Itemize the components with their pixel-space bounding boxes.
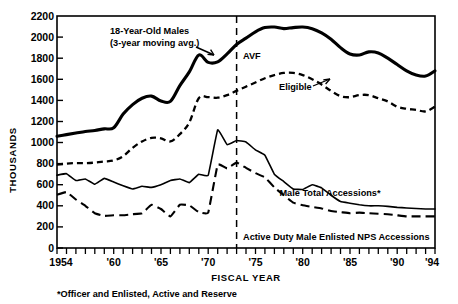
- y-axis-tick-labels: 0 200 400 600 800 1000 1200 1400 1600 18…: [31, 10, 55, 254]
- male-total-accessions-label: Male Total Accessions*: [279, 188, 381, 198]
- y-tick-600: 600: [36, 178, 54, 190]
- y-tick-2000: 2000: [31, 31, 55, 43]
- y-tick-800: 800: [36, 157, 54, 169]
- nps-accessions-label: Active Duty Male Enlisted NPS Accessions: [243, 232, 430, 242]
- x-tick-1985: '85: [343, 256, 357, 268]
- x-tick-1965: '65: [154, 256, 168, 268]
- chart-figure: 0 200 400 600 800 1000 1200 1400 1600 18…: [0, 0, 458, 304]
- chart-footnote: *Officer and Enlisted, Active and Reserv…: [57, 289, 237, 299]
- y-tick-2200: 2200: [31, 10, 55, 22]
- chart-svg: 0 200 400 600 800 1000 1200 1400 1600 18…: [0, 0, 458, 304]
- x-tick-1980: '80: [296, 256, 310, 268]
- x-tick-1994: '94: [425, 256, 439, 268]
- y-tick-200: 200: [36, 220, 54, 232]
- y-tick-1000: 1000: [31, 136, 55, 148]
- top-curve-label-line1: 18-Year-Old Males: [110, 26, 189, 36]
- avf-label: AVF: [243, 51, 261, 61]
- x-tick-1970: '70: [201, 256, 215, 268]
- x-tick-1990: '90: [390, 256, 404, 268]
- y-axis-title: THOUSANDS: [7, 127, 18, 193]
- y-tick-1400: 1400: [31, 94, 55, 106]
- y-tick-400: 400: [36, 199, 54, 211]
- y-tick-1600: 1600: [31, 73, 55, 85]
- y-tick-1800: 1800: [31, 52, 55, 64]
- y-tick-1200: 1200: [31, 115, 55, 127]
- x-tick-1975: '75: [248, 256, 262, 268]
- top-curve-label-line2: (3-year moving avg.): [110, 38, 199, 48]
- x-axis-ticks: [57, 248, 435, 254]
- y-tick-0: 0: [48, 242, 54, 254]
- x-tick-1960: '60: [107, 256, 121, 268]
- x-tick-1954: 1954: [49, 256, 73, 268]
- x-axis-tick-labels: 1954 '60 '65 '70 '75 '80 '85 '90 '94: [49, 256, 439, 268]
- x-axis-title: FISCAL YEAR: [211, 272, 281, 283]
- eligible-label: Eligible: [279, 82, 312, 92]
